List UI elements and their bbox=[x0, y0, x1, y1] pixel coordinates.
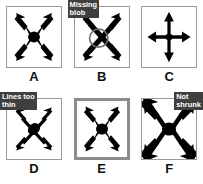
annotation-missing-blob: Missing blob bbox=[68, 0, 100, 18]
panel-cell-a: A bbox=[0, 0, 68, 92]
panel-caption-e: E bbox=[68, 162, 136, 176]
icon-panel-a[interactable] bbox=[6, 6, 62, 68]
panel-cell-f: Not shrunk F bbox=[135, 92, 203, 184]
panel-cell-e: E bbox=[68, 92, 136, 184]
panel-grid: A bbox=[0, 0, 203, 184]
diagonal-four-arrow-cross-icon bbox=[77, 101, 127, 157]
panel-caption-b: B bbox=[68, 70, 136, 84]
panel-caption-d: D bbox=[0, 162, 68, 176]
diagonal-four-arrow-cross-icon bbox=[7, 7, 61, 67]
panel-caption-c: C bbox=[135, 70, 203, 84]
icon-panel-c[interactable] bbox=[141, 6, 197, 68]
panel-cell-b: Missing blob B bbox=[68, 0, 136, 92]
panel-caption-f: F bbox=[135, 162, 203, 176]
annotation-not-shrunk: Not shrunk bbox=[174, 92, 203, 110]
panel-caption-a: A bbox=[0, 70, 68, 84]
arrow-cross-icon-comparison-figure: A bbox=[0, 0, 203, 184]
panel-cell-d: Lines too thin D bbox=[0, 92, 68, 184]
orthogonal-four-arrow-cross-icon bbox=[142, 7, 196, 67]
icon-panel-e[interactable] bbox=[74, 98, 130, 160]
annotation-lines-too-thin: Lines too thin bbox=[0, 92, 37, 110]
panel-cell-c: C bbox=[135, 0, 203, 92]
